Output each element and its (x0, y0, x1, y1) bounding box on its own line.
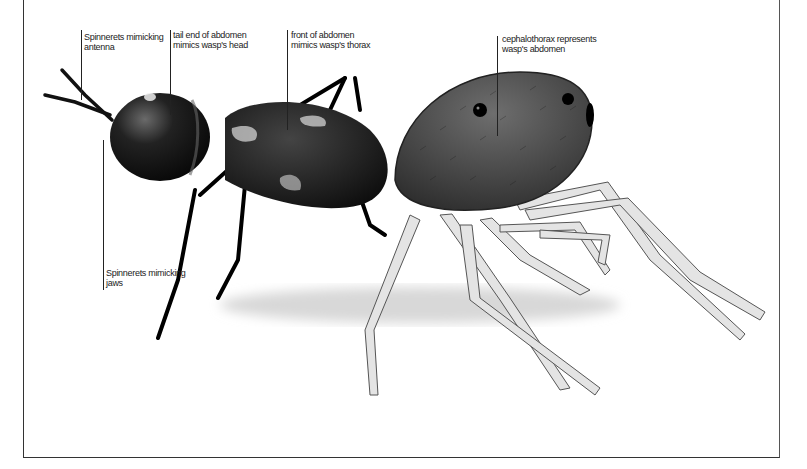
eye (562, 93, 574, 105)
label-antenna: Spinnerets mimicking antenna (84, 32, 164, 52)
spinnerets (45, 70, 112, 120)
ground-shadow (220, 287, 620, 323)
label-jaws: Spinnerets mimicking jaws (106, 268, 186, 288)
leader-abdomen (497, 36, 498, 136)
leader-jaws (103, 140, 104, 290)
label-abdomen: cephalothorax represents wasp's abdomen (502, 34, 596, 54)
eye (473, 103, 487, 117)
leader-thorax (287, 30, 288, 130)
label-head: tail end of abdomen mimics wasp's head (173, 30, 248, 50)
leader-head (170, 30, 171, 115)
spider-illustration (0, 0, 807, 469)
eye (586, 103, 594, 127)
label-thorax: front of abdomen mimics wasp's thorax (291, 30, 370, 50)
leader-antenna (81, 30, 82, 100)
